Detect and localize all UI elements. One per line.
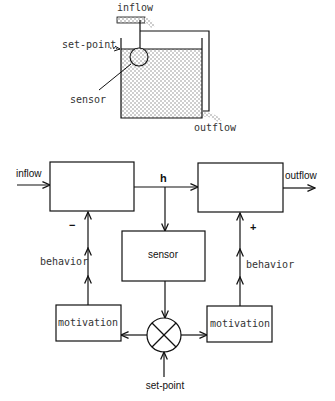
block-diagram: inflow h outflow sensor set-point [16,162,317,391]
right-behavior-label: behavior [246,259,294,270]
left-behavior-label: behavior [40,256,88,267]
inflow-stream [145,17,155,28]
inflow-process-box [50,162,134,211]
sensor-float-ball [130,48,148,66]
tank-sensor-label: sensor [70,94,106,105]
plus-sign: + [250,221,256,233]
tank-setpoint-label: set-point [62,39,116,50]
right-motivation-label: motivation [210,318,270,329]
inflow-pipe [117,17,145,23]
h-label: h [160,172,167,184]
left-motivation-label: motivation [58,317,118,328]
comparator-junction [147,318,181,352]
sensor-box-label: sensor [148,249,179,260]
block-setpoint-label: set-point [146,380,185,391]
tank-inflow-label: inflow [117,2,154,13]
block-inflow-label: inflow [16,168,42,179]
outflow-process-box [198,163,283,212]
minus-sign: − [69,219,75,231]
block-outflow-label: outflow [285,170,317,181]
feedback-control-diagram: inflow set-point sensor outflow inflow [0,0,335,401]
tank-illustration: inflow set-point sensor outflow [62,2,237,133]
tank-outflow-label: outflow [194,122,237,133]
outflow-stream [203,112,222,122]
